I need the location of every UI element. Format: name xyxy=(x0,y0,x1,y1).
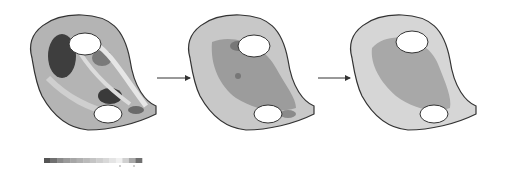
colorbar xyxy=(44,158,142,167)
hole-bottom xyxy=(94,105,122,123)
plate-stage-2 xyxy=(189,15,314,130)
colorbar-cell xyxy=(90,158,97,163)
hole-bottom xyxy=(420,105,448,123)
colorbar-cell xyxy=(83,158,90,163)
colorbar-cell xyxy=(103,158,110,163)
hole-top xyxy=(238,35,270,57)
hole-bottom xyxy=(254,105,282,123)
hole-top xyxy=(396,31,428,53)
colorbar-cell xyxy=(129,158,136,163)
plate-stage-1 xyxy=(31,15,156,130)
colorbar-cell xyxy=(116,158,123,163)
hole-top xyxy=(69,33,101,55)
colorbar-cell xyxy=(122,158,129,163)
colorbar-cell xyxy=(96,158,103,163)
colorbar-cell xyxy=(135,158,142,163)
plate-stage-3 xyxy=(351,15,476,130)
colorbar-cell xyxy=(77,158,84,163)
colorbar-cell xyxy=(44,158,51,163)
colorbar-cell xyxy=(109,158,116,163)
figure xyxy=(0,0,523,170)
colorbar-cell xyxy=(51,158,58,163)
colorbar-cell xyxy=(70,158,77,163)
colorbar-cell xyxy=(64,158,71,163)
colorbar-cell xyxy=(57,158,64,163)
